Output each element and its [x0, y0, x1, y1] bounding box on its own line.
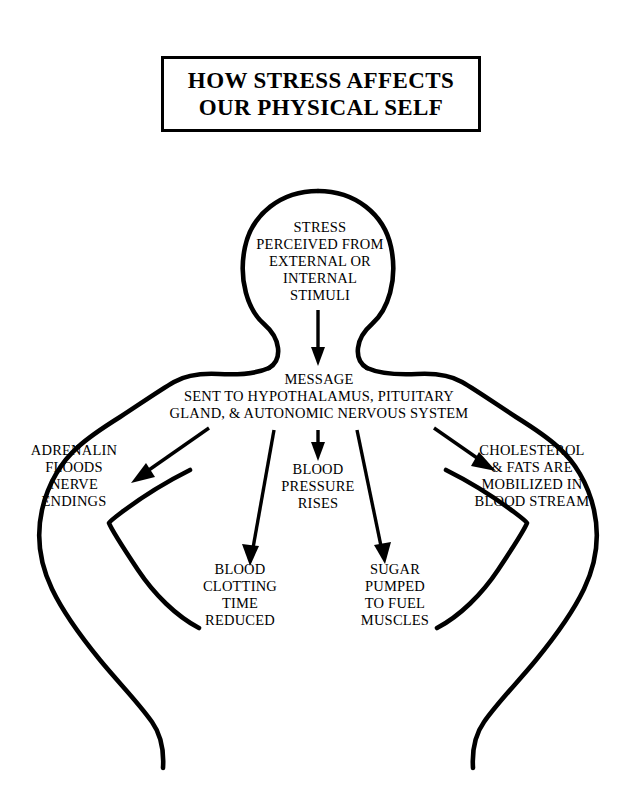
poster-page: HOW STRESS AFFECTS OUR PHYSICAL SELF — [0, 0, 637, 798]
label-line: NERVE — [14, 476, 134, 493]
label-line: CHOLESTEROL — [462, 442, 602, 459]
label-blood-clotting-reduced: BLOOD CLOTTING TIME REDUCED — [185, 561, 295, 629]
label-sugar-pumped-muscles: SUGAR PUMPED TO FUEL MUSCLES — [343, 561, 447, 629]
label-line: BLOOD STREAM — [462, 493, 602, 510]
label-line: PERCEIVED FROM — [246, 236, 394, 253]
label-line: SUGAR — [343, 561, 447, 578]
arrow-message-to-adrenalin — [131, 428, 209, 483]
label-line: MESSAGE — [148, 371, 490, 388]
label-cholesterol-mobilized: CHOLESTEROL & FATS ARE MOBILIZED IN BLOO… — [462, 442, 602, 510]
label-line: BLOOD — [185, 561, 295, 578]
label-line: STIMULI — [246, 287, 394, 304]
label-line: INTERNAL — [246, 270, 394, 287]
label-line: PUMPED — [343, 578, 447, 595]
label-line: BLOOD — [268, 461, 368, 478]
label-line: EXTERNAL OR — [246, 253, 394, 270]
label-adrenalin-floods: ADRENALIN FLOODS NERVE ENDINGS — [14, 442, 134, 510]
label-line: GLAND, & AUTONOMIC NERVOUS SYSTEM — [148, 405, 490, 422]
label-message-sent: MESSAGE SENT TO HYPOTHALAMUS, PITUITARY … — [148, 371, 490, 422]
label-line: SENT TO HYPOTHALAMUS, PITUITARY — [148, 388, 490, 405]
label-line: FLOODS — [14, 459, 134, 476]
label-line: MOBILIZED IN — [462, 476, 602, 493]
arrow-group — [131, 310, 496, 566]
label-line: CLOTTING — [185, 578, 295, 595]
arrow-stress-to-message — [311, 310, 325, 366]
label-line: RISES — [268, 495, 368, 512]
arrow-message-to-bp — [311, 430, 325, 461]
label-stress-perceived: STRESS PERCEIVED FROM EXTERNAL OR INTERN… — [246, 219, 394, 304]
label-line: TO FUEL — [343, 595, 447, 612]
label-line: MUSCLES — [343, 612, 447, 629]
label-blood-pressure-rises: BLOOD PRESSURE RISES — [268, 461, 368, 512]
label-line: STRESS — [246, 219, 394, 236]
label-line: REDUCED — [185, 612, 295, 629]
label-line: ADRENALIN — [14, 442, 134, 459]
label-line: & FATS ARE — [462, 459, 602, 476]
label-line: PRESSURE — [268, 478, 368, 495]
label-line: ENDINGS — [14, 493, 134, 510]
label-line: TIME — [185, 595, 295, 612]
